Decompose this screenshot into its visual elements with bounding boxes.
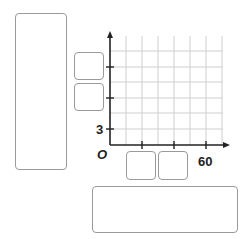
origin-label: O xyxy=(97,148,107,161)
coordinate-grid xyxy=(0,0,245,239)
grid-lines xyxy=(110,36,223,145)
x-tick-label: 60 xyxy=(198,155,212,168)
y-tick-label: 3 xyxy=(96,123,103,136)
x-axis-arrow-icon xyxy=(223,142,230,148)
tick-marks xyxy=(106,67,206,149)
y-axis-arrow-icon xyxy=(107,31,113,38)
